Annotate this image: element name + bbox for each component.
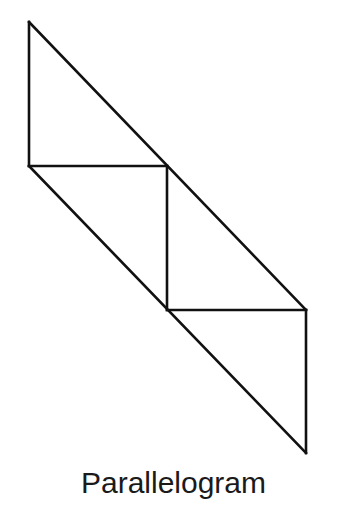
- figure-caption: Parallelogram: [0, 466, 347, 500]
- parallelogram-figure: Parallelogram: [0, 0, 347, 507]
- parallelogram-diagram: [0, 0, 347, 507]
